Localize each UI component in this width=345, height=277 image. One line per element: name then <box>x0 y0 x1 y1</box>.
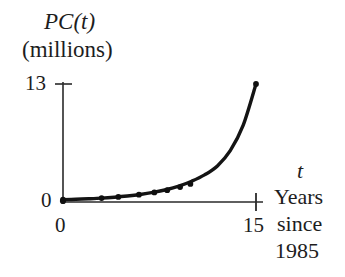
data-point <box>177 184 183 190</box>
data-point <box>60 197 66 203</box>
data-point <box>115 194 121 200</box>
data-point <box>99 195 105 201</box>
exponential-curve <box>63 84 256 200</box>
data-point <box>151 190 157 196</box>
data-point <box>164 187 170 193</box>
data-point <box>187 181 193 187</box>
data-point-markers <box>60 81 259 202</box>
chart-figure: PC(t) (millions) 13 0 0 15 t Years since… <box>0 0 345 277</box>
plot-area <box>0 0 345 277</box>
data-point <box>253 81 259 87</box>
data-point <box>136 192 142 198</box>
